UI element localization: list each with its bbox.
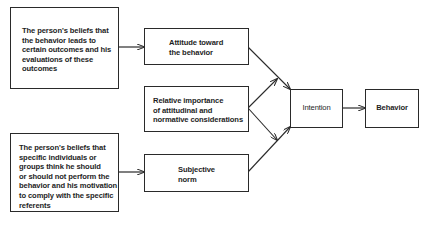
node-intention-label: Intention [290, 103, 343, 113]
node-relative-importance-text: Relative importance of attitudinal and n… [153, 96, 243, 125]
arrow-importance-to-attitude-link [248, 79, 277, 108]
node-behavior-label: Behavior [365, 103, 419, 113]
node-attitude-text: Attitude toward the behavior [169, 38, 223, 57]
node-beliefs-outcomes-text: The person's beliefs that the behavior l… [22, 26, 111, 74]
node-beliefs-referents-text: The person's beliefs that specific indiv… [19, 143, 117, 210]
node-subjective-norm-text: Subjective norm [178, 165, 215, 184]
arrow-attitude-to-intention [248, 47, 290, 89]
arrow-norm-to-intention [248, 127, 290, 172]
arrow-importance-to-norm-link [248, 108, 277, 140]
